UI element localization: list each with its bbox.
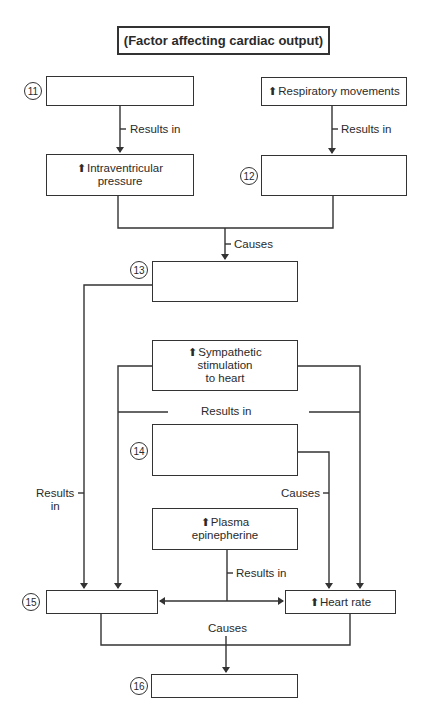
box-13-blank[interactable] [152,261,298,302]
number-11: 11 [24,82,42,100]
diagram-title: (Factor affecting cardiac output) [124,34,323,47]
label-results-in-left: Results in [36,487,74,513]
label-causes-1: Causes [234,238,273,251]
sympathetic-line1: Sympathetic [198,346,261,358]
box-intraventricular-pressure: ⬆Intraventricular pressure [46,154,194,196]
number-16: 16 [130,677,148,695]
number-12: 12 [240,167,258,185]
number-13: 13 [130,261,148,279]
box-heart-rate: ⬆Heart rate [285,590,396,614]
up-arrow-icon: ⬆ [310,596,319,609]
respiratory-text: Respiratory movements [278,85,399,98]
up-arrow-icon: ⬆ [188,346,197,358]
label-causes-3: Causes [208,622,247,635]
box-14-blank[interactable] [152,424,298,476]
label-causes-2: Causes [281,487,320,500]
title-box: (Factor affecting cardiac output) [117,26,330,55]
label-results-in-2: Results in [341,123,392,136]
intraventricular-line1: Intraventricular [87,162,163,174]
up-arrow-icon: ⬆ [268,85,277,98]
label-results-left-line2: in [36,500,74,513]
sympathetic-line3: to heart [206,372,245,385]
sympathetic-line2: stimulation [198,359,253,372]
box-12-blank[interactable] [261,155,407,196]
box-plasma-epinepherine: ⬆Plasma epinepherine [152,508,298,550]
label-results-in-1: Results in [130,123,181,136]
number-14: 14 [130,442,148,460]
label-results-in-3: Results in [201,405,252,418]
heart-rate-text: Heart rate [320,596,371,609]
box-sympathetic-stimulation: ⬆Sympathetic stimulation to heart [152,340,298,391]
plasma-line1: Plasma [211,516,249,528]
box-11-blank[interactable] [46,76,194,106]
up-arrow-icon: ⬆ [77,162,86,174]
plasma-line2: epinepherine [192,529,259,542]
intraventricular-line2: pressure [98,175,143,188]
label-results-left-line1: Results [36,487,74,500]
box-respiratory-movements: ⬆Respiratory movements [261,77,407,106]
up-arrow-icon: ⬆ [201,516,210,528]
box-15-blank[interactable] [46,590,158,614]
box-16-blank[interactable] [151,674,298,698]
label-results-in-4: Results in [236,567,287,580]
number-15: 15 [22,593,40,611]
